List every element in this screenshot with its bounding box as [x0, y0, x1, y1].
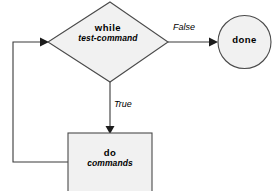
node-while-label-group: while test-command — [48, 23, 168, 43]
flowchart-diagram: while test-command done do commands Fals… — [0, 0, 275, 191]
node-done-primary-label: done — [218, 35, 271, 46]
edge-do-to-while-line — [13, 42, 68, 162]
node-while-secondary-label: test-command — [48, 34, 168, 44]
edge-label-false: False — [173, 22, 195, 32]
node-do-secondary-label: commands — [68, 159, 152, 169]
edge-while-to-done-arrowhead — [209, 38, 218, 47]
node-do-label-group: do commands — [68, 148, 152, 168]
edge-while-to-done — [168, 38, 218, 47]
node-done-label-group: done — [218, 35, 271, 46]
edge-label-true: True — [114, 99, 132, 109]
edge-do-to-while — [13, 38, 68, 163]
